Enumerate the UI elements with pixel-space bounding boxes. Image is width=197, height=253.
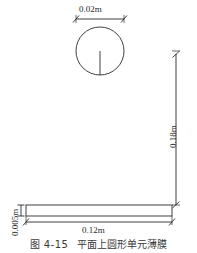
technical-drawing-figure: 0.02m 0.18m 0.005m 0.12m 图 4-15平面上圆形单元薄膜 xyxy=(0,0,197,253)
figure-caption-title: 平面上圆形单元薄膜 xyxy=(77,239,167,250)
diameter-dimension-line xyxy=(73,15,127,23)
plate-cross-section xyxy=(26,205,172,216)
dimension-label-plate-height: 0.18m xyxy=(168,125,178,148)
circle-element xyxy=(76,27,124,75)
dimension-label-plate-thickness: 0.005m xyxy=(10,209,20,236)
figure-caption: 图 4-15平面上圆形单元薄膜 xyxy=(0,236,197,251)
dimension-label-plate-width: 0.12m xyxy=(82,225,105,235)
figure-caption-number: 图 4-15 xyxy=(30,239,69,250)
dimension-label-circle-diameter: 0.02m xyxy=(79,4,102,14)
